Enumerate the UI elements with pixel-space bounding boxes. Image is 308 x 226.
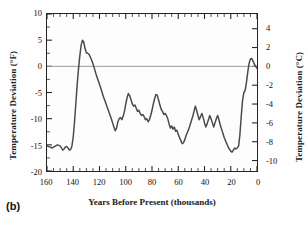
y-tick-left-5: 5 bbox=[16, 35, 42, 45]
x-tick-20: 20 bbox=[218, 177, 246, 187]
y-tick-right-minus8: -8 bbox=[266, 137, 292, 147]
y-tick-right-minus6: -6 bbox=[266, 118, 292, 128]
figure-panel-b: Temperature Deviation (°F) Temperature D… bbox=[0, 0, 308, 226]
x-tick-100: 100 bbox=[112, 177, 140, 187]
y-tick-right-2: 2 bbox=[266, 42, 292, 52]
x-tick-60: 60 bbox=[165, 177, 193, 187]
y-tick-right-4: 4 bbox=[266, 23, 292, 33]
x-tick-120: 120 bbox=[85, 177, 113, 187]
y-axis-right-title: Temperature Deviation (°C) bbox=[294, 52, 304, 162]
y-tick-right-minus4: -4 bbox=[266, 99, 292, 109]
x-tick-0: 0 bbox=[244, 177, 272, 187]
y-tick-left-minus10: -10 bbox=[16, 114, 42, 124]
y-tick-left-minus20: -20 bbox=[16, 167, 42, 177]
y-tick-left-10: 10 bbox=[16, 8, 42, 18]
x-tick-160: 160 bbox=[32, 177, 60, 187]
y-tick-right-minus10: -10 bbox=[266, 156, 292, 166]
temperature-deviation-line bbox=[47, 40, 257, 152]
y-tick-left-0: 0 bbox=[16, 61, 42, 71]
x-tick-40: 40 bbox=[191, 177, 219, 187]
y-tick-left-minus5: -5 bbox=[16, 88, 42, 98]
panel-label: (b) bbox=[6, 200, 20, 212]
plot-area bbox=[46, 13, 258, 172]
x-tick-140: 140 bbox=[59, 177, 87, 187]
chart-canvas bbox=[47, 14, 257, 171]
y-tick-left-minus15: -15 bbox=[16, 141, 42, 151]
x-tick-80: 80 bbox=[138, 177, 166, 187]
y-tick-right-minus2: -2 bbox=[266, 80, 292, 90]
x-axis-title: Years Before Present (thousands) bbox=[46, 197, 258, 207]
y-tick-right-0: 0 bbox=[266, 61, 292, 71]
tick-marks bbox=[47, 14, 257, 171]
